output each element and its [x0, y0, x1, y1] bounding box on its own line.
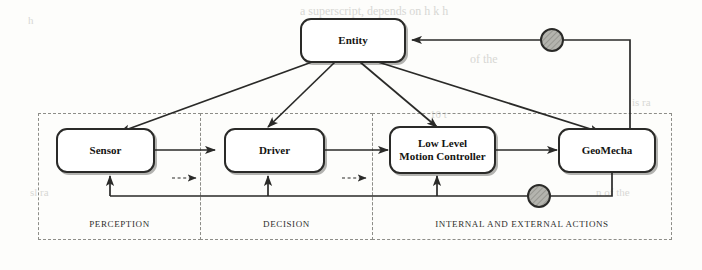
edge-entity-to-sensor	[120, 62, 312, 132]
node-controller-label-line2: Motion Controller	[396, 150, 488, 163]
node-sensor-label: Sensor	[87, 144, 125, 157]
node-geomecha-label: GeoMecha	[579, 144, 636, 157]
node-geomecha[interactable]: GeoMecha	[558, 128, 656, 173]
node-low-level-motion-controller[interactable]: Low Level Motion Controller	[389, 126, 496, 174]
node-driver-label: Driver	[256, 144, 293, 157]
node-entity-label: Entity	[335, 34, 370, 47]
edge-entity-to-controller	[360, 62, 437, 127]
node-driver[interactable]: Driver	[224, 128, 325, 173]
node-sensor[interactable]: Sensor	[56, 128, 155, 173]
edge-feedback-bus	[110, 172, 612, 196]
diagram-canvas: a superscript, depends on h k h h of the…	[0, 0, 702, 270]
edge-entity-to-driver	[268, 62, 335, 127]
node-controller-label-line1: Low Level	[415, 137, 470, 150]
edge-entity-to-geomecha	[378, 62, 600, 132]
edge-geomecha-to-entity	[412, 40, 630, 128]
node-entity[interactable]: Entity	[300, 18, 406, 63]
